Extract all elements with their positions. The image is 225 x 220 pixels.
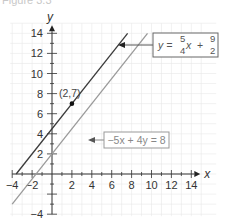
svg-text:x: x — [203, 167, 211, 181]
svg-text:y =: y = — [157, 39, 172, 51]
svg-text:−4: −4 — [6, 179, 19, 191]
svg-text:x: x — [185, 39, 192, 51]
svg-text:6: 6 — [109, 179, 115, 191]
svg-text:12: 12 — [31, 47, 43, 59]
svg-text:5: 5 — [180, 33, 185, 44]
svg-text:2: 2 — [69, 179, 75, 191]
svg-text:9: 9 — [210, 33, 215, 44]
svg-text:y: y — [46, 10, 54, 24]
svg-text:4: 4 — [89, 179, 95, 191]
svg-text:2: 2 — [210, 45, 215, 56]
svg-text:4: 4 — [180, 45, 185, 56]
svg-text:−5x + 4y = 8: −5x + 4y = 8 — [107, 134, 165, 146]
svg-text:10: 10 — [145, 179, 157, 191]
svg-text:+: + — [197, 39, 203, 51]
svg-text:8: 8 — [37, 88, 43, 100]
svg-text:12: 12 — [165, 179, 177, 191]
svg-text:8: 8 — [129, 179, 135, 191]
svg-text:(2,7): (2,7) — [59, 87, 81, 99]
line-chart: −4−22468101214−42468101214xy (2,7)y =54x… — [0, 0, 225, 220]
svg-text:4: 4 — [37, 128, 43, 140]
svg-text:14: 14 — [185, 179, 197, 191]
svg-text:14: 14 — [31, 27, 43, 39]
svg-text:2: 2 — [37, 148, 43, 160]
svg-text:−4: −4 — [30, 208, 43, 220]
svg-text:6: 6 — [37, 108, 43, 120]
svg-text:10: 10 — [31, 68, 43, 80]
